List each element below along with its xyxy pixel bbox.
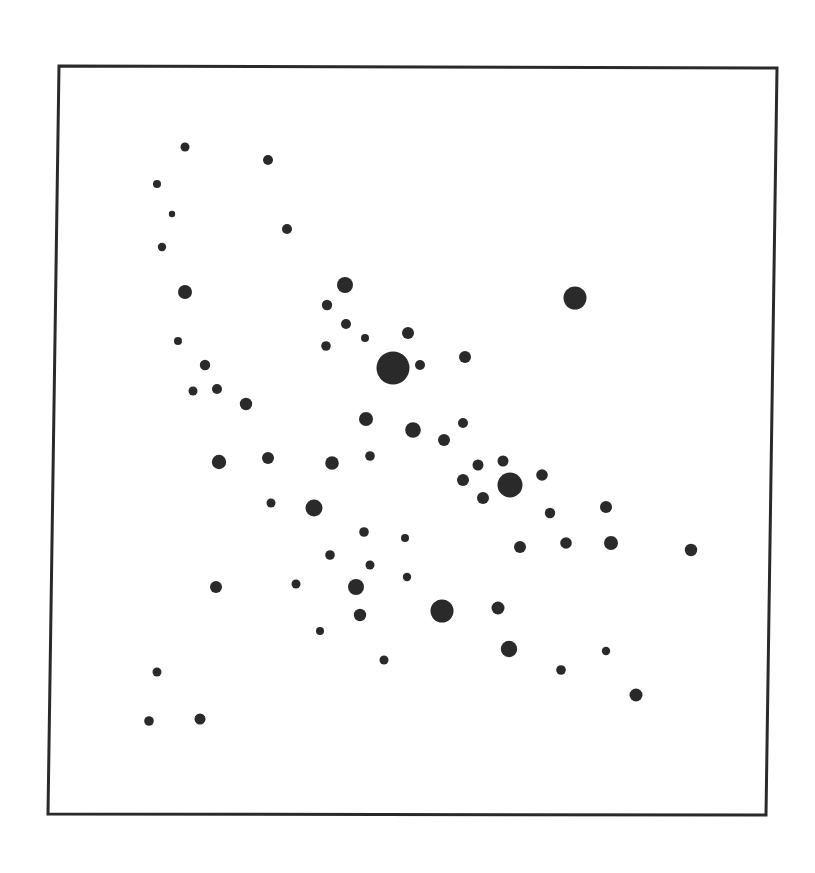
data-point: [545, 508, 555, 518]
data-point: [267, 499, 276, 508]
data-point: [401, 534, 409, 542]
data-point: [431, 600, 454, 623]
data-point: [415, 360, 425, 370]
data-point: [153, 668, 162, 677]
plot-frame: [48, 66, 777, 815]
data-point: [174, 337, 182, 345]
data-point: [306, 500, 323, 517]
data-point: [282, 224, 292, 234]
data-point: [337, 277, 353, 293]
data-point: [457, 474, 469, 486]
data-point: [477, 492, 489, 504]
data-point: [325, 550, 335, 560]
data-point: [604, 536, 618, 550]
dot-scatter-figure: [0, 0, 815, 873]
data-point: [365, 451, 375, 461]
data-point: [322, 300, 332, 310]
data-point: [263, 155, 273, 165]
data-point: [403, 573, 411, 581]
data-point: [181, 143, 190, 152]
data-point: [536, 469, 548, 481]
data-point: [292, 580, 301, 589]
data-point: [498, 456, 509, 467]
data-point: [600, 501, 612, 513]
data-point: [212, 384, 222, 394]
data-point: [458, 418, 468, 428]
data-point: [200, 360, 210, 370]
data-point: [178, 285, 192, 299]
data-point: [325, 456, 339, 470]
data-point: [158, 243, 166, 251]
data-point: [240, 398, 252, 410]
data-point: [459, 351, 471, 363]
data-point: [564, 287, 587, 310]
data-point: [348, 579, 364, 595]
data-point: [361, 334, 369, 342]
data-point: [498, 473, 523, 498]
data-point: [195, 714, 206, 725]
data-point: [262, 452, 274, 464]
data-point: [316, 627, 324, 635]
data-point: [321, 341, 331, 351]
data-points: [144, 143, 697, 726]
data-point: [359, 412, 373, 426]
data-point: [189, 387, 198, 396]
data-point: [169, 211, 175, 217]
data-point: [405, 422, 421, 438]
data-point: [210, 581, 222, 593]
data-point: [560, 537, 572, 549]
data-point: [212, 455, 226, 469]
data-point: [402, 327, 414, 339]
data-point: [153, 180, 161, 188]
data-point: [144, 716, 154, 726]
data-point: [354, 609, 366, 621]
data-point: [556, 665, 566, 675]
data-point: [377, 352, 410, 385]
data-point: [501, 641, 517, 657]
data-point: [514, 541, 526, 553]
data-point: [685, 544, 697, 556]
data-point: [341, 319, 351, 329]
data-point: [380, 656, 389, 665]
data-point: [359, 527, 369, 537]
data-point: [438, 434, 450, 446]
data-point: [473, 460, 484, 471]
data-point: [630, 689, 643, 702]
data-point: [366, 561, 375, 570]
data-point: [492, 602, 505, 615]
data-point: [602, 647, 610, 655]
